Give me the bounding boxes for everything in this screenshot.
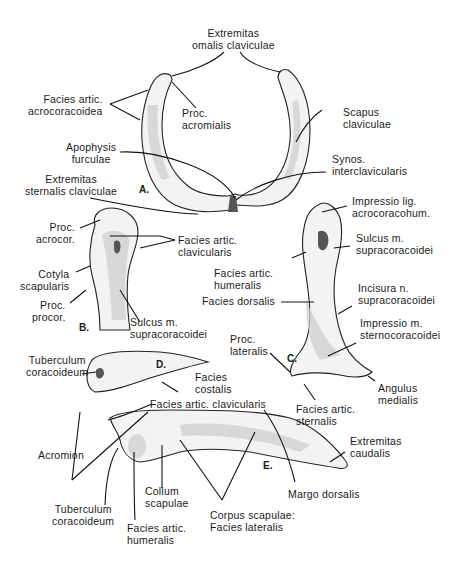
label-collum-scapulae: Collum scapulae (145, 485, 189, 509)
label-facies-dorsalis: Facies dorsalis (202, 295, 275, 307)
label-impressio-sternocoracoidei: Impressio m. sternocoracoidei (360, 317, 440, 341)
label-proc-procor: Proc. procor. (32, 299, 66, 323)
label-tuberculum-coracoideum-d: Tuberculum coracoideum (26, 354, 88, 378)
label-facies-costalis: Facies costalis (195, 371, 232, 395)
figure-letter-b: B. (79, 322, 89, 333)
anatomy-diagram: A. B. C. D. E. Extremitas omalis clavicu… (0, 0, 461, 562)
label-impressio-lig: Impressio lig. acrocoracohum. (352, 195, 430, 219)
label-scapus-claviculae: Scapus claviculae (343, 106, 391, 130)
label-extremitas-omalis: Extremitas omalis claviculae (192, 27, 275, 51)
label-tuberculum-coracoideum-e: Tuberculum coracoideum (52, 503, 114, 527)
figure-letter-a: A. (139, 184, 149, 195)
figure-b-coracoid (90, 208, 138, 330)
label-sulcus-supracoracoidei-b: Sulcus m. supracoracoidei (130, 316, 207, 340)
label-facies-artic-clavicularis-e: Facies artic. clavicularis (150, 398, 266, 410)
label-extremitas-caudalis: Extremitas caudalis (350, 435, 402, 459)
label-proc-acrocor: Proc. acrocor. (36, 221, 75, 245)
label-facies-artic-acrocoracoidea: Facies artic. acrocoracoidea (28, 93, 103, 117)
figure-letter-e: E. (263, 460, 272, 471)
label-incisura-supracoracoidei: Incisura n. supracoracoidei (358, 282, 435, 306)
label-facies-artic-sternalis: Facies artic. sternalis (296, 403, 355, 427)
label-synos-interclavicularis: Synos. interclavicularis (332, 153, 407, 177)
label-apophysis-furculae: Apophysis furculae (66, 141, 116, 165)
label-cotyla-scapularis: Cotyla scapularis (20, 268, 69, 292)
label-extremitas-sternalis: Extremitas sternalis claviculae (25, 173, 117, 197)
figure-letter-c: C. (287, 353, 297, 364)
label-acromion: Acromion (38, 449, 84, 461)
label-margo-dorsalis: Margo dorsalis (288, 488, 360, 500)
label-facies-artic-humeralis-e: Facies artic. humeralis (127, 522, 186, 546)
label-sulcus-supracoracoidei-c: Sulcus m. supracoracoidei (356, 232, 433, 256)
label-facies-artic-clavicularis: Facies artic. clavicularis (178, 234, 237, 258)
figure-letter-d: D. (156, 359, 166, 370)
label-proc-acromialis: Proc. acromialis (182, 107, 231, 131)
label-proc-lateralis: Proc. lateralis (230, 333, 268, 357)
label-facies-artic-humeralis-c: Facies artic. humeralis (214, 267, 273, 291)
figure-a-furcula (142, 69, 310, 212)
figure-d-scapula (87, 351, 208, 392)
label-angulus-medialis: Angulus medialis (378, 382, 418, 406)
label-corpus-scapulae: Corpus scapulae: Facies lateralis (210, 509, 295, 533)
